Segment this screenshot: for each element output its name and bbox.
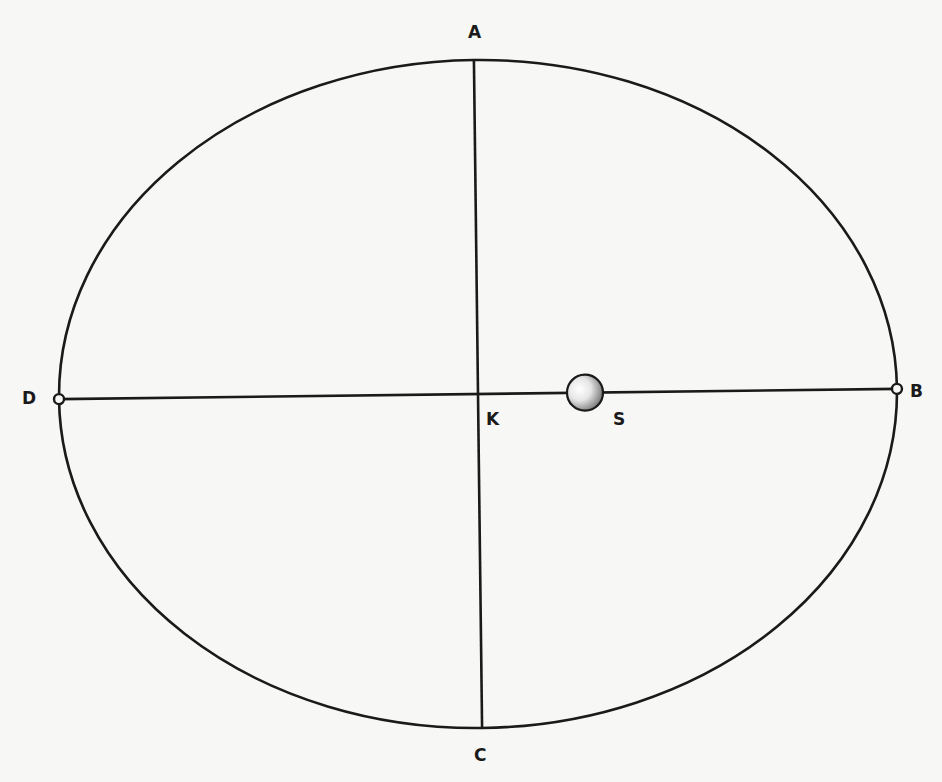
label-b: B bbox=[910, 381, 923, 401]
label-k: K bbox=[486, 409, 499, 429]
sun-icon bbox=[567, 374, 603, 410]
point-b-marker bbox=[892, 384, 902, 394]
label-c: C bbox=[474, 745, 486, 765]
point-d-marker bbox=[54, 394, 64, 404]
label-a: A bbox=[468, 22, 481, 42]
orbit-diagram bbox=[0, 0, 942, 782]
label-s: S bbox=[613, 409, 625, 429]
label-d: D bbox=[22, 388, 36, 408]
